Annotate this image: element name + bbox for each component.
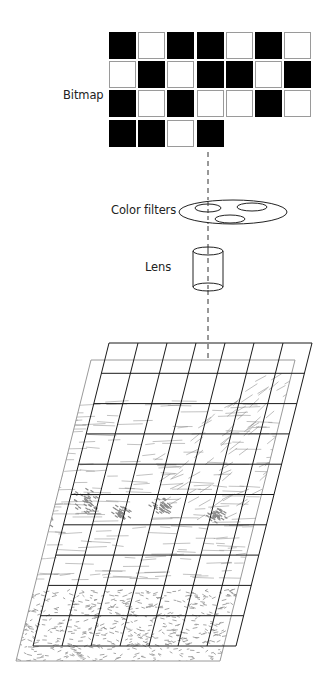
color-filter-disc: [179, 200, 287, 224]
lens-cylinder: [193, 247, 223, 291]
bitmap-projection-diagram: Bitmap Color filters Lens: [0, 0, 331, 689]
landscape-picture: [0, 360, 318, 666]
diagram-artwork: [0, 0, 331, 689]
